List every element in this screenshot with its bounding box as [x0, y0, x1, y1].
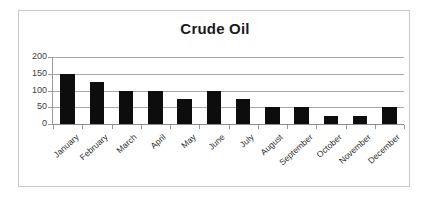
bar-april[interactable]	[148, 91, 163, 125]
bar-february[interactable]	[90, 82, 105, 124]
bar-series	[53, 57, 404, 124]
y-tick-label-0: 0	[21, 119, 47, 128]
x-tick	[199, 125, 200, 129]
x-tick	[112, 125, 113, 129]
y-tick-50	[48, 107, 52, 108]
bar-slot	[82, 57, 111, 124]
x-tick	[346, 125, 347, 129]
x-tick	[287, 125, 288, 129]
bar-january[interactable]	[60, 74, 75, 124]
bar-slot	[141, 57, 170, 124]
plot-area	[53, 57, 404, 124]
x-tick-label-august: August	[259, 132, 285, 157]
bar-slot	[346, 57, 375, 124]
bar-september[interactable]	[294, 107, 309, 124]
bar-slot	[258, 57, 287, 124]
bar-slot	[112, 57, 141, 124]
bar-may[interactable]	[177, 99, 192, 124]
y-tick-label-50: 50	[21, 102, 47, 111]
x-tick	[53, 125, 54, 129]
bar-june[interactable]	[207, 91, 222, 125]
x-tick-label-april: April	[149, 132, 168, 151]
chart-title: Crude Oil	[19, 20, 411, 38]
x-tick	[258, 125, 259, 129]
y-tick-0	[48, 124, 52, 125]
x-tick	[141, 125, 142, 129]
y-tick-label-100: 100	[21, 86, 47, 95]
bar-slot	[287, 57, 316, 124]
bar-slot	[316, 57, 345, 124]
x-tick-label-december: December	[366, 132, 402, 166]
bar-july[interactable]	[236, 99, 251, 124]
bar-october[interactable]	[324, 116, 339, 124]
bar-slot	[199, 57, 228, 124]
y-tick-label-150: 150	[21, 69, 47, 78]
y-tick-label-200: 200	[21, 52, 47, 61]
bar-slot	[229, 57, 258, 124]
x-tick	[316, 125, 317, 129]
bar-slot	[53, 57, 82, 124]
x-tick	[229, 125, 230, 129]
x-tick-label-may: May	[179, 132, 198, 150]
x-tick-label-june: June	[206, 132, 226, 152]
bar-slot	[375, 57, 404, 124]
bar-march[interactable]	[119, 91, 134, 125]
bar-slot	[170, 57, 199, 124]
y-tick-100	[48, 91, 52, 92]
x-tick	[404, 125, 405, 129]
x-tick	[170, 125, 171, 129]
chart-frame: Crude Oil 050100150200 JanuaryFebruaryMa…	[18, 10, 410, 187]
x-tick-label-january: January	[51, 132, 80, 160]
x-tick	[82, 125, 83, 129]
bar-august[interactable]	[265, 107, 280, 124]
bar-november[interactable]	[353, 116, 368, 124]
x-tick-label-july: July	[238, 132, 256, 150]
x-tick-label-february: February	[78, 132, 110, 162]
y-tick-200	[48, 57, 52, 58]
y-tick-150	[48, 74, 52, 75]
x-tick	[375, 125, 376, 129]
bar-december[interactable]	[382, 107, 397, 124]
x-tick-label-march: March	[115, 132, 139, 155]
